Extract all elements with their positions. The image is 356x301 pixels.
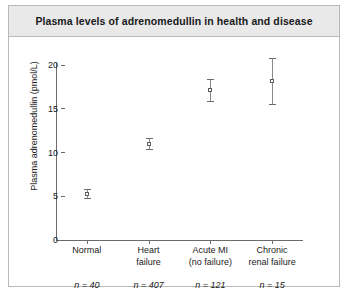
error-bar-cap (146, 138, 153, 139)
y-axis-tick-mark (61, 196, 65, 197)
error-bar-cap (84, 189, 91, 190)
mean-marker (147, 142, 151, 146)
x-axis-category-label: Chronicrenal failure (228, 245, 316, 268)
y-axis-tick: 10 (9, 148, 65, 158)
error-bar-cap (269, 104, 276, 105)
mean-marker (270, 79, 274, 83)
x-axis-tick-mark (272, 240, 273, 244)
y-axis-tick-mark (61, 240, 65, 241)
x-axis-tick-mark (87, 240, 88, 244)
chart-title-band: Plasma levels of adrenomedullin in healt… (9, 6, 339, 37)
y-axis-tick: 0 (9, 235, 65, 245)
error-bar-cap (146, 149, 153, 150)
category-label-line: Chronic (228, 245, 316, 257)
x-axis-tick-mark (210, 240, 211, 244)
y-axis-tick-mark (61, 65, 65, 66)
category-label-line: renal failure (228, 257, 316, 269)
error-bar-cap (207, 79, 214, 80)
y-axis-tick-label: 5 (53, 191, 61, 201)
mean-marker (85, 192, 89, 196)
y-axis-tick-mark (61, 108, 65, 109)
page-title: Plasma levels of adrenomedullin in healt… (35, 15, 312, 27)
y-axis-tick-label: 0 (53, 235, 61, 245)
y-axis-tick-label: 20 (48, 60, 61, 70)
y-axis-tick-label: 15 (48, 104, 61, 114)
x-axis-tick-mark (149, 240, 150, 244)
figure-card: Plasma levels of adrenomedullin in healt… (8, 5, 340, 287)
error-bar-cap (207, 101, 214, 102)
y-axis-tick-mark (61, 152, 65, 153)
y-axis-tick: 5 (9, 191, 65, 201)
plot-area: Plasma adrenomedullin (pmol/L) 05101520 … (9, 37, 341, 287)
mean-marker (208, 88, 212, 92)
error-bar-cap (84, 198, 91, 199)
sample-size-label: n = 15 (228, 280, 316, 290)
x-axis-line (56, 240, 303, 241)
error-bar-cap (269, 58, 276, 59)
y-axis-tick: 15 (9, 104, 65, 114)
y-axis-tick: 20 (9, 60, 65, 70)
y-axis-tick-label: 10 (48, 148, 61, 158)
